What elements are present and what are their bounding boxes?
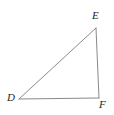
vertex-label-e: E (92, 10, 99, 21)
edge-fd (19, 98, 99, 99)
triangle-figure: D E F (0, 0, 114, 115)
edge-ef (96, 28, 99, 98)
vertex-label-f: F (99, 99, 106, 110)
vertex-label-d: D (7, 92, 15, 103)
edge-de (19, 28, 96, 99)
